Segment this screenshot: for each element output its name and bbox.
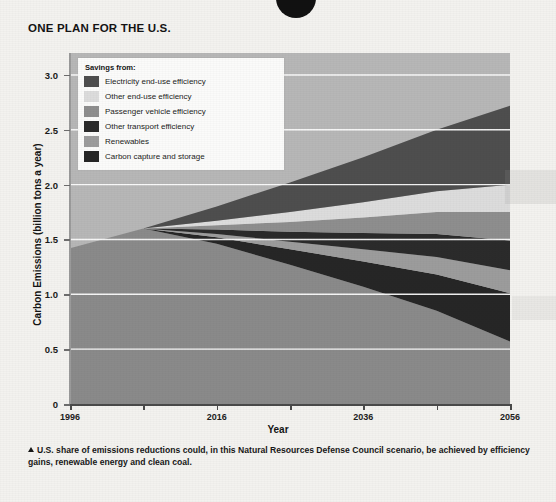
y-axis-tick	[64, 294, 70, 296]
caption-triangle-icon	[28, 447, 34, 452]
x-axis-tick	[290, 404, 292, 410]
legend-items: Electricity end-use efficiencyOther end-…	[84, 74, 278, 164]
y-axis-tick-label: 2.0	[45, 179, 58, 190]
x-axis-tick	[70, 404, 72, 410]
y-axis-tick-label: 2.5	[45, 124, 58, 135]
x-axis-tick	[510, 404, 512, 410]
legend-item: Electricity end-use efficiency	[84, 74, 278, 89]
legend-item-label: Renewables	[105, 137, 149, 146]
circle-bullet-icon	[276, 0, 316, 18]
legend-item-label: Other end-use efficiency	[105, 92, 192, 101]
y-axis-tick-label: 3.0	[45, 69, 58, 80]
y-axis-tick	[64, 185, 70, 187]
figure-container: ONE PLAN FOR THE U.S. Carbon Emissions (…	[0, 0, 556, 502]
y-axis-tick-label: 0	[53, 399, 58, 410]
legend-swatch-icon	[84, 151, 99, 162]
x-axis-tick	[363, 404, 365, 410]
x-axis-tick	[217, 404, 219, 410]
y-axis-tick	[64, 349, 70, 351]
legend-swatch-icon	[84, 91, 99, 102]
legend-swatch-icon	[84, 121, 99, 132]
x-axis-tick-label: 2016	[207, 412, 227, 422]
scan-smudge	[512, 296, 556, 320]
legend-item: Renewables	[84, 134, 278, 149]
y-axis-line	[69, 53, 71, 405]
x-axis-tick	[143, 404, 145, 410]
legend-item-label: Other transport efficiency	[105, 122, 194, 131]
legend-item-label: Electricity end-use efficiency	[105, 77, 206, 86]
y-axis-tick-label: 1.0	[45, 289, 58, 300]
y-axis-tick-label: 0.5	[45, 344, 58, 355]
legend-swatch-icon	[84, 76, 99, 87]
legend-item: Other transport efficiency	[84, 119, 278, 134]
x-axis-tick	[437, 404, 439, 410]
legend-swatch-icon	[84, 136, 99, 147]
caption-text: U.S. share of emissions reductions could…	[28, 445, 530, 467]
figure-caption: U.S. share of emissions reductions could…	[28, 444, 536, 469]
scan-smudge	[505, 170, 556, 204]
legend-swatch-icon	[84, 106, 99, 117]
y-axis-tick	[64, 75, 70, 77]
y-axis-label: Carbon Emissions (billion tons a year)	[32, 120, 43, 350]
legend-item: Carbon capture and storage	[84, 149, 278, 164]
x-axis-tick-label: 2036	[353, 412, 373, 422]
y-axis-tick	[64, 239, 70, 241]
x-axis-tick-label: 1996	[60, 412, 80, 422]
x-axis-tick-label: 2056	[500, 412, 520, 422]
legend-item-label: Passenger vehicle efficiency	[105, 107, 206, 116]
chart-legend: Savings from: Electricity end-use effici…	[78, 58, 284, 170]
legend-item: Other end-use efficiency	[84, 89, 278, 104]
x-axis-label: Year	[0, 424, 556, 435]
legend-item-label: Carbon capture and storage	[105, 152, 205, 161]
legend-item: Passenger vehicle efficiency	[84, 104, 278, 119]
y-axis-tick-label: 1.5	[45, 234, 58, 245]
legend-title: Savings from:	[85, 63, 278, 72]
y-axis-tick	[64, 130, 70, 132]
